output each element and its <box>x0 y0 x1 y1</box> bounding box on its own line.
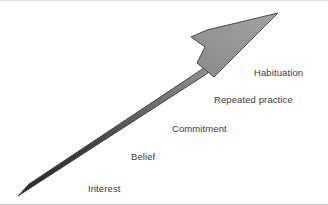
stage-label-repeated-practice: Repeated practice <box>214 95 293 105</box>
stage-label-habituation: Habituation <box>254 68 303 78</box>
stage-label-commitment: Commitment <box>172 124 227 134</box>
stage-label-interest: Interest <box>88 184 120 194</box>
stage-label-belief: Belief <box>131 152 155 162</box>
diagram-canvas: Interest Belief Commitment Repeated prac… <box>0 0 328 205</box>
